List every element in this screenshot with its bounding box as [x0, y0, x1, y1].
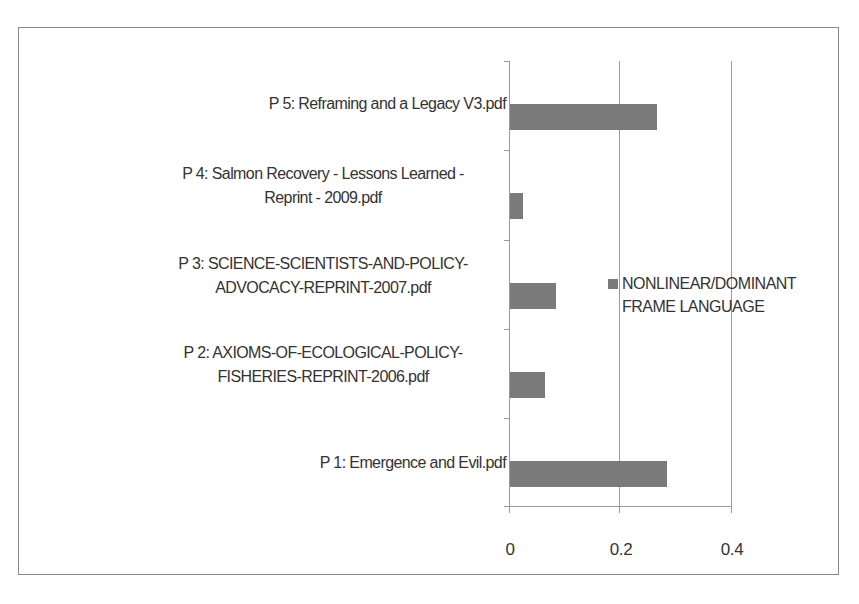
- y-axis-tick: [504, 240, 510, 241]
- bar-p3: [510, 283, 556, 309]
- legend: NONLINEAR/DOMINANT FRAME LANGUAGE: [608, 272, 852, 318]
- category-label-p3: P 3: SCIENCE-SCIENTISTS-AND-POLICY- ADVO…: [143, 252, 503, 300]
- category-label-line: P 4: Salmon Recovery - Lessons Learned -: [143, 162, 503, 186]
- x-tick-label-0-2: 0.2: [610, 540, 633, 560]
- x-tick-label-0-4: 0.4: [721, 540, 744, 560]
- y-axis-tick: [504, 329, 510, 330]
- x-axis: [504, 506, 732, 507]
- category-label-p1: P 1: Emergence and Evil.pdf: [146, 451, 506, 475]
- category-label-p5: P 5: Reframing and a Legacy V3.pdf: [146, 92, 506, 116]
- y-axis-tick: [504, 418, 510, 419]
- legend-label-line: NONLINEAR/DOMINANT: [622, 272, 852, 295]
- legend-label-line: FRAME LANGUAGE: [622, 295, 852, 318]
- category-label-line: P 2: AXIOMS-OF-ECOLOGICAL-POLICY-: [143, 341, 503, 365]
- category-label-p4: P 4: Salmon Recovery - Lessons Learned -…: [143, 162, 503, 210]
- y-axis-tick: [504, 150, 510, 151]
- category-label-p2: P 2: AXIOMS-OF-ECOLOGICAL-POLICY- FISHER…: [143, 341, 503, 389]
- legend-label: NONLINEAR/DOMINANT FRAME LANGUAGE: [622, 272, 852, 318]
- category-label-line: Reprint - 2009.pdf: [143, 186, 503, 210]
- x-axis-tick: [731, 506, 732, 513]
- category-label-line: P 5: Reframing and a Legacy V3.pdf: [146, 92, 506, 116]
- x-axis-tick: [509, 506, 510, 513]
- bar-p2: [510, 372, 545, 398]
- category-label-line: FISHERIES-REPRINT-2006.pdf: [143, 365, 503, 389]
- category-label-line: P 3: SCIENCE-SCIENTISTS-AND-POLICY-: [143, 252, 503, 276]
- legend-swatch-icon: [608, 279, 618, 289]
- bar-p5: [510, 104, 657, 130]
- x-axis-tick: [619, 506, 620, 513]
- x-tick-label-0: 0: [505, 540, 514, 560]
- bar-p1: [510, 461, 667, 487]
- category-label-line: ADVOCACY-REPRINT-2007.pdf: [143, 276, 503, 300]
- category-label-line: P 1: Emergence and Evil.pdf: [146, 451, 506, 475]
- y-axis-tick: [504, 61, 510, 62]
- bar-p4: [510, 193, 523, 219]
